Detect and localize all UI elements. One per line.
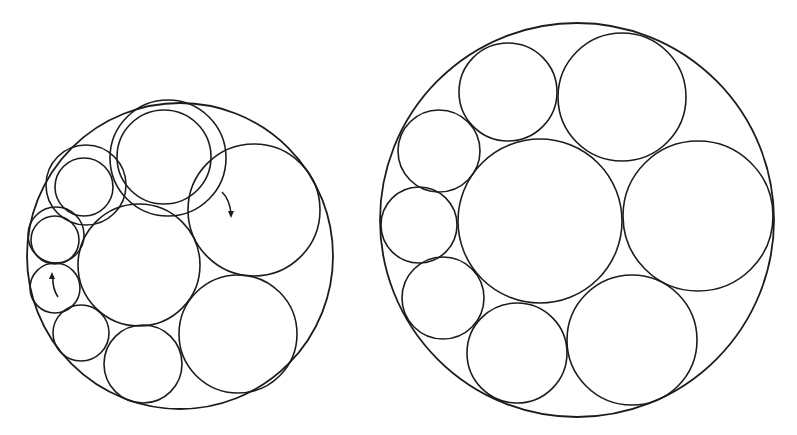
inner-circle-center <box>78 204 200 326</box>
left-circle-packing <box>27 100 333 409</box>
arrow-left-icon <box>49 272 58 297</box>
outer-circle <box>380 23 774 417</box>
inner-circle-right <box>623 141 773 291</box>
inner-circle-left-inner <box>31 216 79 264</box>
inner-circle-upper-middle-outer <box>110 100 226 216</box>
arrow-right-icon <box>222 192 234 218</box>
right-circle-packing <box>380 23 774 417</box>
inner-circle-upper-left-outer <box>46 145 126 225</box>
inner-circle-left-middle <box>381 187 457 263</box>
inner-circle-bottom-middle <box>104 325 182 403</box>
inner-circle-bottom <box>467 303 567 403</box>
inner-circle-left-upper <box>398 110 480 192</box>
inner-circle-upper-middle-inner <box>117 110 211 204</box>
inner-circle-right-upper <box>188 144 320 276</box>
inner-circle-center <box>458 139 622 303</box>
circle-packing-diagram <box>0 0 797 435</box>
inner-circle-top-right <box>558 33 686 161</box>
inner-circle-left-lower <box>402 257 484 339</box>
inner-circle-top-left <box>459 43 557 141</box>
inner-circle-bottom-right <box>567 275 697 405</box>
diagram-canvas <box>0 0 797 435</box>
inner-circle-bottom-right <box>179 275 297 393</box>
